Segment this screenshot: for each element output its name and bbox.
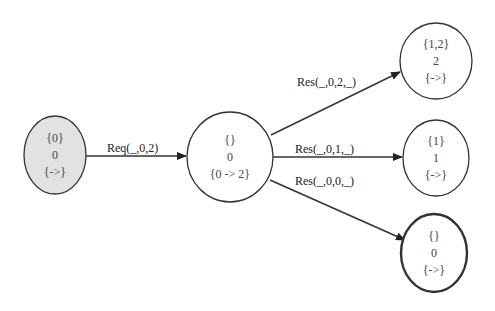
edge-s1-s3: Res(_,0,1,_)	[273, 142, 402, 157]
node-line: 0	[431, 246, 437, 260]
node-s0: {0} 0 {->}	[24, 116, 86, 194]
node-line: {->}	[423, 263, 445, 277]
node-s3: {1} 1 {->}	[403, 120, 469, 196]
node-line: {0 -> 2}	[210, 167, 250, 181]
node-line: 2	[433, 54, 439, 68]
node-line: 0	[52, 148, 58, 162]
node-line: {->}	[425, 71, 447, 85]
node-line: 1	[433, 151, 439, 165]
edge-s1-s4: Res(_,0,0,_)	[270, 174, 405, 240]
edge-label: Res(_,0,1,_)	[295, 142, 354, 156]
node-line: {->}	[44, 165, 66, 179]
edge-label: Req(_,0,2)	[107, 141, 158, 155]
node-line: {1}	[427, 134, 445, 148]
node-line: {}	[224, 133, 236, 147]
node-s4: {} 0 {->}	[401, 214, 467, 292]
node-s1: {} 0 {0 -> 2}	[187, 112, 273, 202]
edge-s1-s2: Res(_,0,2,_)	[271, 72, 400, 135]
node-line: 0	[227, 150, 233, 164]
node-line: {->}	[425, 168, 447, 182]
edge-label: Res(_,0,0,_)	[295, 174, 354, 188]
edge-label: Res(_,0,2,_)	[297, 75, 356, 89]
node-line: {1,2}	[423, 37, 450, 51]
node-line: {0}	[46, 131, 64, 145]
node-line: {}	[428, 229, 440, 243]
state-diagram: Req(_,0,2) Res(_,0,2,_) Res(_,0,1,_) Res…	[0, 0, 495, 311]
edge-s0-s1: Req(_,0,2)	[86, 141, 186, 156]
node-s2: {1,2} 2 {->}	[400, 23, 472, 99]
